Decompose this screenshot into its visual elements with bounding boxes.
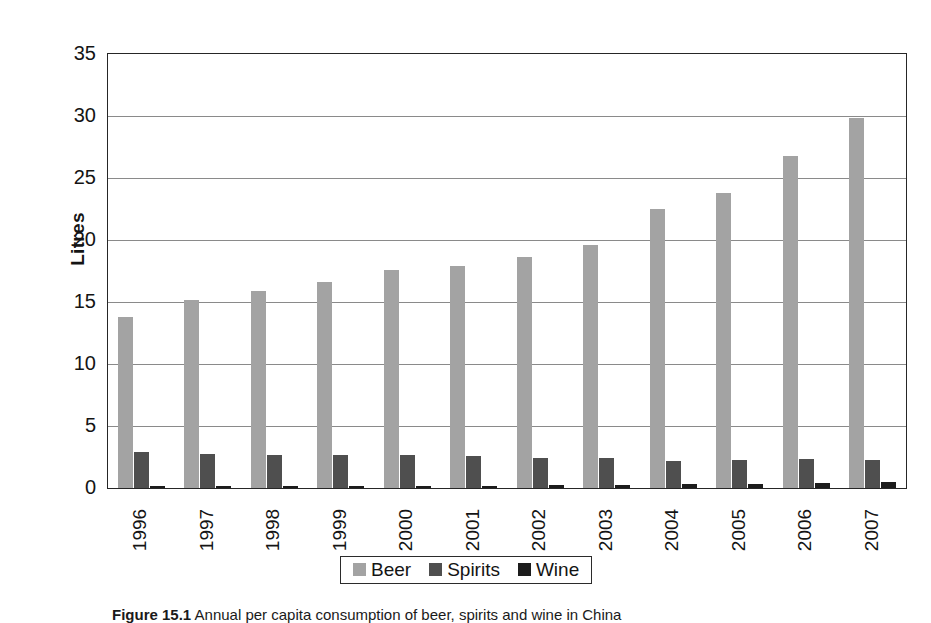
bar-beer xyxy=(118,317,133,488)
figure-caption-label: Figure 15.1 xyxy=(112,606,191,623)
bar-wine xyxy=(216,486,231,488)
bar-spirits xyxy=(666,461,681,488)
bar-beer xyxy=(650,209,665,488)
bar-beer xyxy=(783,156,798,488)
x-axis-tick-label-group: 1996199719981999200020012002200320042005… xyxy=(107,489,905,551)
y-axis-tick-label: 10 xyxy=(44,353,96,373)
y-axis-tick-label: 20 xyxy=(44,229,96,249)
bar-groups xyxy=(108,54,906,488)
y-axis-tick-label: 5 xyxy=(44,415,96,435)
bar-wine xyxy=(748,484,763,488)
legend-label: Wine xyxy=(536,560,579,579)
x-axis-tick-cell: 1997 xyxy=(174,489,241,551)
bar-wine xyxy=(150,486,165,488)
legend-swatch-icon xyxy=(518,563,531,576)
bar-group xyxy=(640,54,707,488)
x-axis-tick-label: 2002 xyxy=(528,495,550,565)
legend-label: Beer xyxy=(371,560,411,579)
x-axis-tick-cell: 2001 xyxy=(440,489,507,551)
bar-group xyxy=(840,54,907,488)
legend-swatch-icon xyxy=(429,563,442,576)
x-axis-tick-cell: 2002 xyxy=(506,489,573,551)
bar-spirits xyxy=(732,460,747,488)
bar-beer xyxy=(317,282,332,488)
bar-wine xyxy=(815,483,830,488)
y-axis-tick-label: 30 xyxy=(44,105,96,125)
x-axis-tick-label: 1999 xyxy=(329,495,351,565)
bar-group xyxy=(308,54,375,488)
bar-wine xyxy=(615,485,630,488)
x-axis-tick-label: 2001 xyxy=(462,495,484,565)
bar-beer xyxy=(849,118,864,488)
bar-beer xyxy=(184,300,199,488)
bar-spirits xyxy=(799,459,814,488)
bar-beer xyxy=(384,270,399,488)
bar-spirits xyxy=(599,458,614,488)
x-axis-tick-cell: 2006 xyxy=(772,489,839,551)
figure-container: Litres 05101520253035 199619971998199920… xyxy=(0,0,931,623)
bar-beer xyxy=(251,291,266,488)
legend-label: Spirits xyxy=(447,560,500,579)
bar-spirits xyxy=(134,452,149,488)
bar-group xyxy=(507,54,574,488)
x-axis-tick-cell: 2003 xyxy=(573,489,640,551)
bar-group xyxy=(374,54,441,488)
bar-beer xyxy=(583,245,598,488)
bar-beer xyxy=(450,266,465,488)
legend-entry-spirits: Spirits xyxy=(429,560,500,579)
x-axis-tick-label: 2006 xyxy=(794,495,816,565)
bar-wine xyxy=(682,484,697,488)
x-axis-tick-cell: 1996 xyxy=(107,489,174,551)
bar-group xyxy=(574,54,641,488)
x-axis-tick-label: 1997 xyxy=(196,495,218,565)
x-axis-tick-cell: 2004 xyxy=(639,489,706,551)
y-axis-tick-label: 0 xyxy=(44,477,96,497)
y-axis-tick-label: 15 xyxy=(44,291,96,311)
x-axis-tick-cell: 1999 xyxy=(307,489,374,551)
x-axis-tick-label: 2003 xyxy=(595,495,617,565)
bar-wine xyxy=(881,482,896,488)
figure-caption: Figure 15.1 Annual per capita consumptio… xyxy=(112,606,902,623)
bar-beer xyxy=(517,257,532,488)
x-axis-tick-cell: 2007 xyxy=(839,489,906,551)
chart-legend: BeerSpiritsWine xyxy=(340,556,592,584)
x-axis-tick-label: 1996 xyxy=(129,495,151,565)
y-axis-tick-label: 35 xyxy=(44,43,96,63)
bar-spirits xyxy=(267,455,282,488)
bar-group xyxy=(241,54,308,488)
x-axis-tick-cell: 2005 xyxy=(706,489,773,551)
bar-spirits xyxy=(466,456,481,488)
bar-group xyxy=(773,54,840,488)
bar-group xyxy=(707,54,774,488)
y-axis-tick-label: 25 xyxy=(44,167,96,187)
x-axis-tick-cell: 1998 xyxy=(240,489,307,551)
y-axis-tick-label-group: 05101520253035 xyxy=(44,0,96,623)
bar-wine xyxy=(482,486,497,488)
legend-entry-wine: Wine xyxy=(518,560,579,579)
x-axis-tick-label: 2000 xyxy=(395,495,417,565)
x-axis-tick-label: 2004 xyxy=(661,495,683,565)
x-axis-tick-label: 2007 xyxy=(861,495,883,565)
legend-swatch-icon xyxy=(353,563,366,576)
bar-spirits xyxy=(533,458,548,488)
bar-group xyxy=(108,54,175,488)
bar-spirits xyxy=(865,460,880,488)
x-axis-tick-label: 1998 xyxy=(262,495,284,565)
bar-wine xyxy=(349,486,364,488)
plot-area xyxy=(107,53,907,489)
bar-beer xyxy=(716,193,731,488)
x-axis-tick-cell: 2000 xyxy=(373,489,440,551)
bar-group xyxy=(441,54,508,488)
bar-spirits xyxy=(333,455,348,488)
bar-spirits xyxy=(400,455,415,488)
figure-caption-text: Annual per capita consumption of beer, s… xyxy=(191,606,621,623)
bar-wine xyxy=(283,486,298,488)
bar-wine xyxy=(416,486,431,488)
bar-group xyxy=(175,54,242,488)
bar-wine xyxy=(549,485,564,488)
legend-entry-beer: Beer xyxy=(353,560,411,579)
bar-spirits xyxy=(200,454,215,488)
x-axis-tick-label: 2005 xyxy=(728,495,750,565)
